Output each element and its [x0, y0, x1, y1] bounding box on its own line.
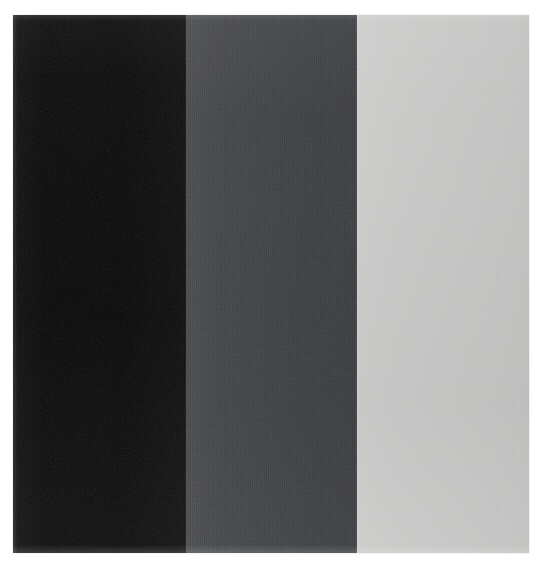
color-band-light [357, 15, 529, 553]
color-band-mid [186, 15, 357, 553]
artwork-frame [0, 0, 543, 571]
color-band-dark [13, 15, 186, 553]
painting-canvas-panel [13, 15, 529, 553]
